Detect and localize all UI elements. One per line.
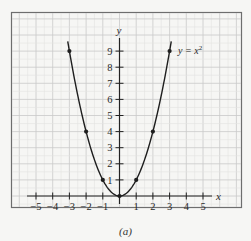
y-tick-label: 8 bbox=[107, 62, 112, 73]
x-tick-label: −3 bbox=[64, 201, 75, 212]
x-tick-label: −2 bbox=[81, 201, 92, 212]
plot-area: −5−4−3−2−112345123456789 xyy = x2 bbox=[0, 0, 251, 241]
x-tick-label: 2 bbox=[150, 201, 155, 212]
y-tick-label: 4 bbox=[107, 126, 113, 137]
figure-caption: (a) bbox=[0, 225, 251, 237]
axis-ticks: −5−4−3−2−112345123456789 bbox=[30, 46, 205, 212]
x-tick-label: −5 bbox=[30, 201, 41, 212]
parabola-chart: −5−4−3−2−112345123456789 xyy = x2 (a) bbox=[0, 0, 251, 241]
y-tick-label: 2 bbox=[107, 158, 112, 169]
grid-lines bbox=[12, 13, 241, 207]
x-tick-label: 1 bbox=[134, 201, 139, 212]
data-point bbox=[151, 130, 155, 134]
data-point bbox=[134, 178, 138, 182]
function-label: y = x2 bbox=[177, 44, 203, 56]
x-tick-label: 5 bbox=[200, 201, 205, 212]
y-tick-label: 1 bbox=[107, 175, 112, 186]
data-point bbox=[84, 130, 88, 134]
x-tick-label: 4 bbox=[184, 201, 190, 212]
y-axis-label: y bbox=[116, 24, 122, 36]
y-tick-label: 7 bbox=[107, 78, 112, 89]
data-point bbox=[168, 49, 172, 53]
x-tick-label: 3 bbox=[167, 201, 172, 212]
y-tick-label: 9 bbox=[107, 46, 112, 57]
x-tick-label: −1 bbox=[97, 201, 108, 212]
y-tick-label: 3 bbox=[107, 142, 112, 153]
x-tick-label: −4 bbox=[47, 201, 59, 212]
data-point bbox=[67, 49, 71, 53]
y-tick-label: 5 bbox=[107, 110, 112, 121]
data-point bbox=[101, 178, 105, 182]
y-tick-label: 6 bbox=[107, 94, 112, 105]
axes bbox=[27, 38, 212, 204]
data-point bbox=[117, 194, 121, 198]
chart-frame bbox=[12, 13, 242, 208]
x-axis-label: x bbox=[215, 190, 221, 202]
